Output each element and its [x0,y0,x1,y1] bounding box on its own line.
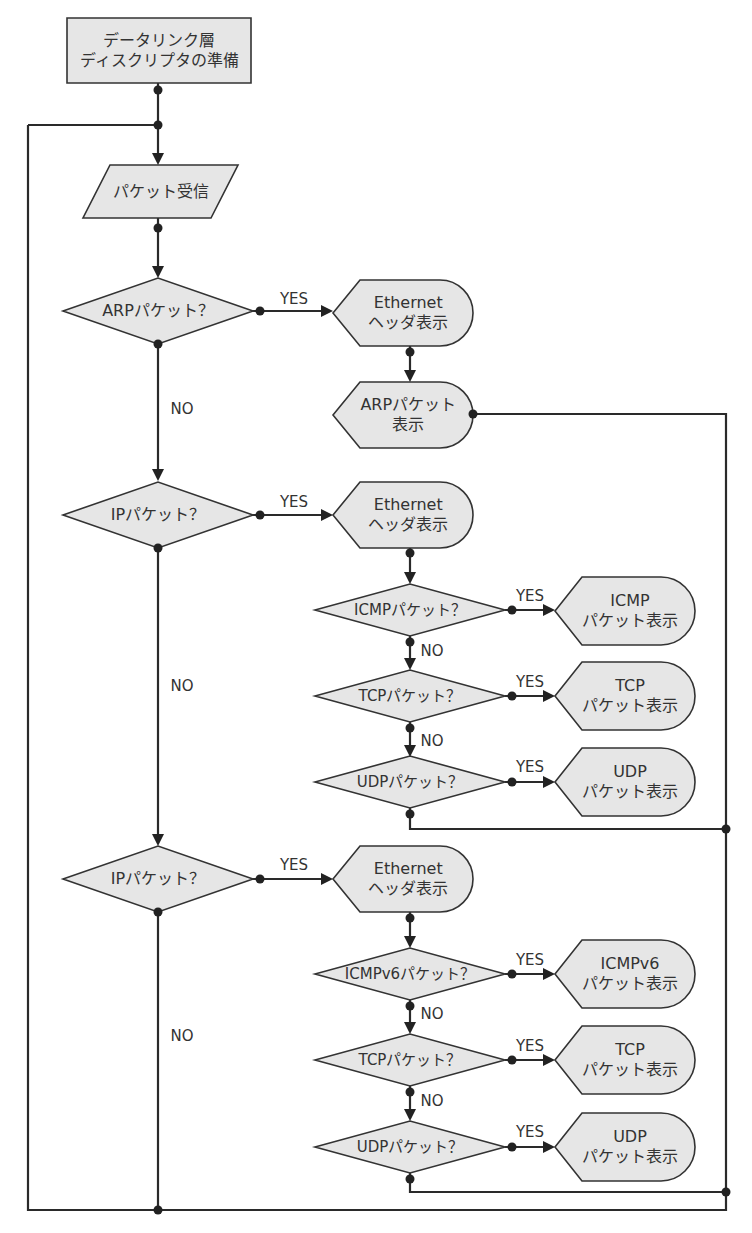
junction-dot [154,224,163,233]
arrowhead-icon [404,572,416,584]
tcp6-show-label: TCP パケット表示 [582,1040,678,1080]
arrowhead-icon [543,690,555,702]
arrowhead-icon [321,873,333,885]
junction-dot [406,1002,415,1011]
junction-dot [508,1143,517,1152]
junction-dot [406,810,415,819]
is-icmpv6-label: ICMPv6パケット？ [345,965,475,984]
arrowhead-icon [404,745,416,757]
receive-label: パケット受信 [113,182,209,202]
junction-dot [406,348,415,357]
is-udp6-label: UDPパケット？ [357,1138,464,1157]
arrowhead-icon [321,509,333,521]
no-branch-label: NO [420,642,443,660]
arp-eth-label: Ethernet ヘッダ表示 [368,293,448,333]
no-branch-label: NO [170,1027,193,1045]
yes-branch-label: YES [280,856,308,874]
arrowhead-icon [404,1022,416,1034]
icmpv6-show-label: ICMPv6 パケット表示 [582,954,678,994]
is-tcp6-label: TCPパケット？ [359,1051,462,1070]
yes-branch-label: YES [516,587,544,605]
junction-dot [406,914,415,923]
junction-dot [722,825,731,834]
junction-dot [722,1188,731,1197]
no-branch-label: NO [170,400,193,418]
no-branch-label: NO [420,1092,443,1110]
junction-dot [154,1206,163,1215]
junction-dot [154,544,163,553]
junction-dot [154,908,163,917]
arrowhead-icon [404,658,416,670]
junction-dot [469,410,478,419]
yes-branch-label: YES [516,951,544,969]
junction-dot [508,970,517,979]
junction-dot [406,1175,415,1184]
junction-dot [154,86,163,95]
arrowhead-icon [152,834,164,846]
yes-branch-label: YES [516,673,544,691]
arrowhead-icon [543,776,555,788]
ip-eth-label: Ethernet ヘッダ表示 [368,495,448,535]
junction-dot [256,511,265,520]
arrowhead-icon [543,1054,555,1066]
junction-dot [154,340,163,349]
arrowhead-icon [404,370,416,382]
yes-branch-label: YES [516,1123,544,1141]
ipv6-eth-label: Ethernet ヘッダ表示 [368,859,448,899]
arrowhead-icon [152,266,164,278]
is-arp-label: ARPパケット？ [102,301,214,321]
junction-dot [508,778,517,787]
tcp-show-label: TCP パケット表示 [582,676,678,716]
no-branch-label: NO [420,1005,443,1023]
is-icmp-label: ICMPパケット？ [354,601,466,620]
junction-dot [508,606,517,615]
is-ipv6-label: IPパケット？ [111,869,205,889]
junction-dot [406,638,415,647]
junction-dot [406,1088,415,1097]
junction-dot [508,1056,517,1065]
arrowhead-icon [404,1109,416,1121]
no-branch-label: NO [420,732,443,750]
arrowhead-icon [543,604,555,616]
udp-show-label: UDP パケット表示 [582,762,678,802]
arp-show-label: ARPパケット 表示 [360,395,456,435]
is-udp-label: UDPパケット？ [357,773,464,792]
yes-branch-label: YES [516,1037,544,1055]
prepare-label: データリンク層 ディスクリプタの準備 [80,31,239,71]
arrowhead-icon [543,1141,555,1153]
is-tcp-label: TCPパケット？ [359,687,462,706]
junction-dot [256,307,265,316]
arrowhead-icon [152,153,164,165]
arrowhead-icon [321,305,333,317]
junction-dot [406,549,415,558]
junction-dot [508,692,517,701]
junction-dot [154,121,163,130]
arrowhead-icon [543,968,555,980]
icmp-show-label: ICMP パケット表示 [582,591,678,631]
junction-dot [406,724,415,733]
is-ip-label: IPパケット？ [111,505,205,525]
yes-branch-label: YES [280,290,308,308]
no-branch-label: NO [170,677,193,695]
arrowhead-icon [404,936,416,948]
yes-branch-label: YES [280,493,308,511]
yes-branch-label: YES [516,758,544,776]
junction-dot [256,875,265,884]
udp6-show-label: UDP パケット表示 [582,1127,678,1167]
arrowhead-icon [152,469,164,481]
